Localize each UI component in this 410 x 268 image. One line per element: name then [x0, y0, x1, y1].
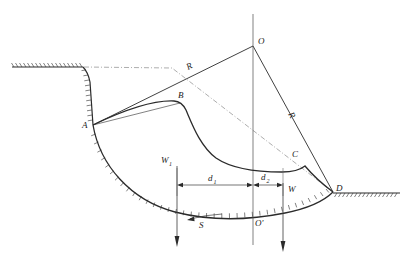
label-force-W: W [288, 184, 297, 194]
failure-slip-surface [91, 125, 333, 219]
right-ground-surface [333, 193, 400, 197]
radius-line-OA [93, 46, 253, 125]
label-dimension-d2: d 2 [261, 172, 270, 184]
label-point-B: B [178, 90, 184, 100]
label-force-W1: W 1 [161, 155, 172, 167]
force-vector-W [281, 183, 286, 252]
slope-stability-diagram: O O' A B C D R R W 1 W S d 1 d 2 [0, 0, 410, 268]
slope-face [82, 67, 94, 125]
right-ground-hatching [335, 193, 398, 197]
left-ground-surface [12, 63, 84, 67]
label-dimension-d2-subscript: 2 [267, 178, 270, 184]
radius-line-OD [253, 46, 333, 192]
label-dimension-d2-main: d [261, 172, 266, 182]
label-point-O: O [258, 36, 265, 46]
label-dimension-d1: d 1 [208, 173, 217, 185]
label-radius-lower: R [286, 109, 298, 120]
label-point-A: A [81, 120, 88, 130]
label-dimension-d1-subscript: 1 [214, 179, 217, 185]
label-point-O-prime: O' [255, 218, 264, 228]
chord-line-AB [93, 103, 180, 125]
force-vector-W1 [175, 166, 180, 247]
label-point-D: D [335, 183, 343, 193]
label-force-S: S [199, 220, 204, 230]
label-radius-upper: R [184, 60, 195, 72]
figure-canvas: O O' A B C D R R W 1 W S d 1 d 2 [0, 0, 410, 268]
label-force-W1-subscript: 1 [169, 161, 172, 167]
label-point-C: C [292, 149, 299, 159]
label-dimension-d1-main: d [208, 173, 213, 183]
